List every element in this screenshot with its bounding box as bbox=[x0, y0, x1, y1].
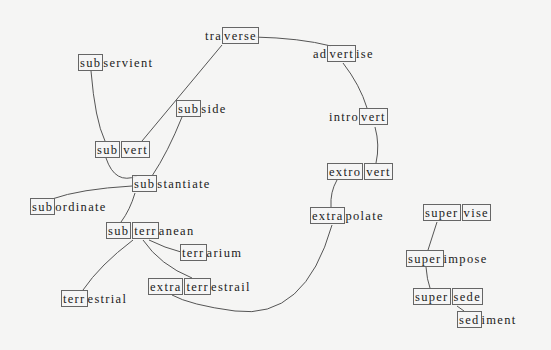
node-subterranean[interactable]: subterranean bbox=[106, 222, 194, 240]
morpheme-box: terr bbox=[61, 290, 88, 307]
edge-advertise-introvert bbox=[343, 63, 367, 108]
node-extrovert[interactable]: extrovert bbox=[327, 163, 393, 181]
edge-subside-substantiate bbox=[152, 117, 182, 176]
node-extraterrestrail[interactable]: extraterrestrail bbox=[148, 278, 251, 296]
node-terrestrial[interactable]: terrestrial bbox=[61, 290, 127, 308]
morpheme-box: sub bbox=[132, 175, 157, 192]
segment: tra bbox=[205, 28, 222, 45]
edge-subservient-subvert bbox=[91, 71, 105, 141]
segment: ad bbox=[313, 46, 327, 63]
morpheme-box: vert bbox=[327, 45, 356, 62]
edge-subterranean-terrarium bbox=[149, 240, 181, 252]
edge-supervise-superimpose bbox=[428, 222, 437, 250]
morpheme-box: extro bbox=[327, 163, 363, 180]
node-terrarium[interactable]: terrarium bbox=[180, 244, 242, 262]
morpheme-box: sub bbox=[78, 54, 103, 71]
edge-extrapolate-extraterrestrail bbox=[172, 225, 332, 312]
morpheme-box: sub bbox=[95, 141, 120, 158]
morpheme-box: sed bbox=[457, 311, 482, 328]
node-substantiate[interactable]: substantiate bbox=[132, 175, 211, 193]
node-extrapolate[interactable]: extrapolate bbox=[310, 207, 384, 225]
segment: side bbox=[201, 101, 226, 118]
node-supervise[interactable]: supervise bbox=[423, 204, 491, 222]
morpheme-box: verse bbox=[222, 27, 259, 44]
segment: estrail bbox=[211, 279, 251, 296]
morpheme-box: sede bbox=[452, 288, 483, 305]
segment: estrial bbox=[88, 291, 128, 308]
edge-substantiate-subterranean bbox=[121, 193, 135, 222]
morpheme-box: vise bbox=[462, 204, 491, 221]
node-subservient[interactable]: subservient bbox=[78, 54, 153, 72]
node-subvert[interactable]: subvert bbox=[95, 141, 150, 159]
morpheme-box: sub bbox=[106, 222, 131, 239]
node-subordinate[interactable]: subordinate bbox=[30, 198, 107, 216]
edge-introvert-extrovert bbox=[375, 127, 378, 163]
segment: stantiate bbox=[157, 176, 210, 193]
segment: arium bbox=[207, 245, 243, 262]
morpheme-box: super bbox=[413, 288, 451, 305]
morpheme-box: vert bbox=[359, 108, 388, 125]
morpheme-box: terr bbox=[180, 244, 207, 261]
node-advertise[interactable]: advertise bbox=[313, 45, 374, 63]
edge-subterranean-terrestrial bbox=[83, 240, 133, 290]
segment: ordinate bbox=[55, 199, 106, 216]
node-supersede[interactable]: supersede bbox=[413, 288, 483, 306]
segment: ise bbox=[356, 46, 374, 63]
segment: servient bbox=[103, 55, 153, 72]
segment: anean bbox=[159, 223, 195, 240]
node-traverse[interactable]: traverse bbox=[205, 27, 259, 45]
segment: iment bbox=[482, 312, 517, 329]
morpheme-box: super bbox=[406, 250, 444, 267]
node-introvert[interactable]: introvert bbox=[329, 108, 388, 126]
morpheme-box: sub bbox=[30, 198, 55, 215]
morpheme-box: terr bbox=[184, 278, 211, 295]
edge-traverse-subvert bbox=[142, 45, 222, 141]
morpheme-box: super bbox=[423, 204, 461, 221]
node-superimpose[interactable]: superimpose bbox=[406, 250, 488, 268]
node-sediment[interactable]: sediment bbox=[457, 311, 517, 329]
segment: intro bbox=[329, 109, 359, 126]
edge-superimpose-supersede bbox=[426, 267, 430, 288]
morpheme-box: extra bbox=[148, 278, 183, 295]
morpheme-box: extra bbox=[310, 207, 345, 224]
morpheme-box: vert bbox=[121, 141, 150, 158]
edge-extrovert-extrapolate bbox=[331, 180, 337, 207]
segment: impose bbox=[444, 251, 488, 268]
node-subside[interactable]: subside bbox=[176, 100, 227, 118]
morpheme-box: sub bbox=[176, 100, 201, 117]
morpheme-box: terr bbox=[132, 222, 159, 239]
segment: polate bbox=[345, 208, 383, 225]
morpheme-box: vert bbox=[364, 163, 393, 180]
